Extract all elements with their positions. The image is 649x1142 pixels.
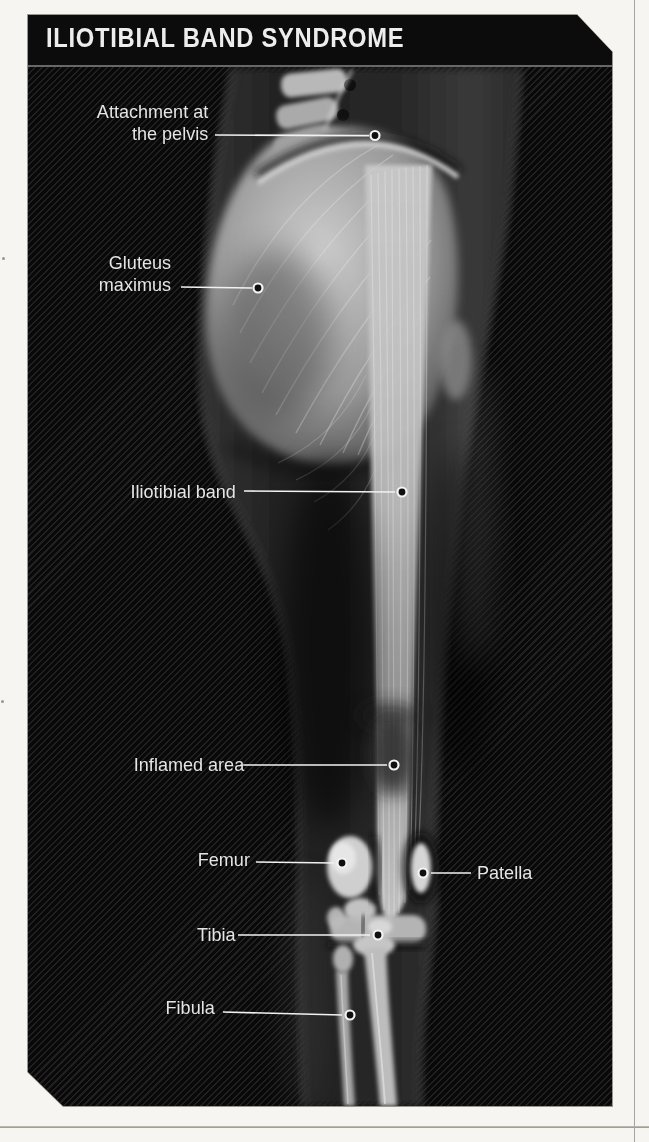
leader-line-gluteus-maximus: [181, 287, 252, 288]
label-attachment-pelvis: Attachment at the pelvis: [97, 101, 208, 145]
leg-xray-illustration: [28, 15, 612, 1106]
marker-gluteus-maximus: [254, 284, 263, 293]
page-edge-line-vertical: [634, 0, 635, 1142]
label-text: the pelvis: [97, 123, 208, 145]
label-text: Patella: [477, 862, 532, 884]
label-femur: Femur: [198, 849, 250, 871]
label-inflamed-area: Inflamed area: [134, 754, 244, 776]
fibula-head: [333, 945, 353, 973]
leader-line-iliotibial-band: [244, 491, 395, 492]
marker-femur: [338, 859, 347, 868]
label-text: Fibula: [166, 997, 215, 1019]
label-iliotibial-band: Iliotibial band: [131, 481, 236, 503]
scanned-page: ILIOTIBIAL BAND SYNDROME Attachment at t…: [0, 0, 649, 1142]
label-fibula: Fibula: [166, 997, 215, 1019]
leader-line-attachment-pelvis: [215, 135, 369, 136]
label-gluteus-maximus: Gluteus maximus: [99, 252, 171, 296]
label-text: Femur: [198, 849, 250, 871]
page-title: ILIOTIBIAL BAND SYNDROME: [46, 23, 404, 54]
label-text: Tibia: [197, 924, 235, 946]
marker-patella: [419, 869, 428, 878]
marker-inflamed-area: [390, 761, 399, 770]
label-text: Attachment at: [97, 101, 208, 123]
panel-header: ILIOTIBIAL BAND SYNDROME: [28, 15, 612, 67]
marker-tibia: [374, 931, 383, 940]
panel-body: ILIOTIBIAL BAND SYNDROME Attachment at t…: [28, 15, 612, 1106]
label-text: Gluteus: [99, 252, 171, 274]
infographic-panel: ILIOTIBIAL BAND SYNDROME Attachment at t…: [27, 14, 613, 1107]
page-edge-line-bottom: [0, 1126, 649, 1128]
label-text: maximus: [99, 274, 171, 296]
marker-attachment-pelvis: [371, 131, 380, 140]
scan-speck: [1, 700, 4, 703]
label-text: Iliotibial band: [131, 481, 236, 503]
label-tibia: Tibia: [197, 924, 235, 946]
marker-iliotibial-band: [398, 488, 407, 497]
scan-speck: [2, 257, 5, 260]
marker-fibula: [346, 1011, 355, 1020]
label-text: Inflamed area: [134, 754, 244, 776]
label-patella: Patella: [477, 862, 532, 884]
leader-line-femur: [256, 862, 334, 863]
